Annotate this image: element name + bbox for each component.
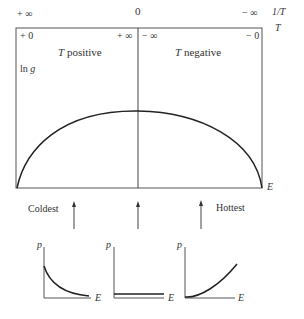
ln-g-curve	[17, 111, 262, 188]
small-plot-2-y-label: p	[106, 240, 111, 250]
main-frame	[16, 28, 262, 188]
small-plot-flat	[114, 247, 164, 298]
small-plot-decreasing	[44, 247, 91, 298]
small-plot-increasing	[185, 247, 237, 298]
small-plot-3-y-label: p	[177, 240, 182, 250]
y-axis-label: ln g	[20, 64, 35, 74]
inv-t-right-label: − ∞	[242, 8, 257, 18]
diagram-canvas	[0, 0, 304, 319]
t-right-label: − 0	[246, 31, 259, 41]
arrow-coldest	[72, 201, 76, 229]
t-positive-label: T positive	[58, 47, 102, 57]
arrow-hottest	[199, 200, 203, 229]
t-left-label: + 0	[20, 31, 33, 41]
hottest-label: Hottest	[216, 203, 245, 213]
arrow-middle	[136, 201, 140, 229]
small-plot-1-x-label: E	[95, 293, 101, 303]
small-plot-1-y-label: p	[37, 240, 42, 250]
t-axis-label: T	[275, 23, 281, 33]
t-negative-label: T negative	[175, 47, 221, 57]
inv-t-middle-label: 0	[135, 6, 141, 16]
t-mid-left-label: + ∞	[117, 31, 132, 41]
coldest-label: Coldest	[28, 204, 59, 214]
small-plot-3-x-label: E	[238, 293, 244, 303]
x-axis-label: E	[267, 182, 273, 192]
t-mid-right-label: − ∞	[142, 31, 157, 41]
inv-t-left-label: + ∞	[17, 9, 32, 19]
inv-t-axis-label: 1/T	[272, 7, 285, 17]
small-plot-2-x-label: E	[168, 293, 174, 303]
